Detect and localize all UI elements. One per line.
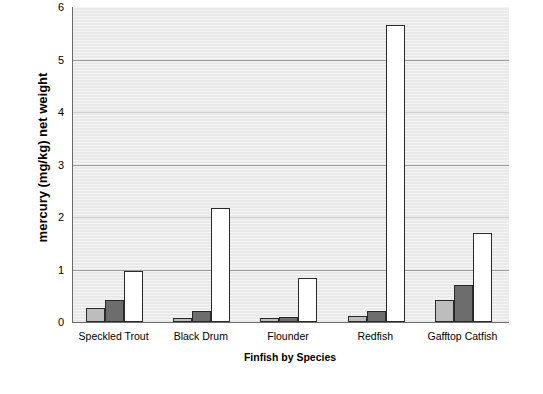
bar <box>86 308 105 322</box>
bar-group <box>335 7 422 322</box>
x-axis-ticks: Speckled TroutBlack DrumFlounderRedfishG… <box>72 330 508 350</box>
bar <box>386 25 405 322</box>
y-tick-label: 2 <box>58 212 64 223</box>
x-tick-label: Redfish <box>357 330 393 342</box>
y-tick-label: 6 <box>58 2 64 13</box>
bar <box>298 278 317 322</box>
x-tick-label: Gafftop Catfish <box>427 330 497 342</box>
x-axis-title: Finfish by Species <box>72 351 508 363</box>
plot-area <box>72 7 509 323</box>
bar-group <box>73 7 160 322</box>
x-tick-label: Speckled Trout <box>79 330 149 342</box>
y-tick-label: 5 <box>58 54 64 65</box>
bar-groups <box>73 7 509 322</box>
bar <box>105 300 124 322</box>
bar <box>124 271 143 322</box>
bar <box>260 318 279 322</box>
bar <box>454 285 473 322</box>
bar <box>173 318 192 322</box>
y-tick-label: 4 <box>58 107 64 118</box>
y-axis-ticks: 0123456 <box>40 0 70 394</box>
bar <box>211 208 230 322</box>
y-tick-label: 3 <box>58 159 64 170</box>
bar-group <box>247 7 334 322</box>
bar <box>435 300 454 322</box>
bar <box>473 233 492 322</box>
y-tick-label: 1 <box>58 264 64 275</box>
bar-chart: mercury (mg/kg) net weight 0123456 Speck… <box>0 0 543 394</box>
bar <box>192 311 211 322</box>
bar-group <box>160 7 247 322</box>
bar <box>367 311 386 322</box>
y-tick-label: 0 <box>58 317 64 328</box>
x-tick-label: Flounder <box>267 330 308 342</box>
x-tick-label: Black Drum <box>174 330 228 342</box>
bar <box>348 316 367 322</box>
bar <box>279 317 298 322</box>
bar-group <box>422 7 509 322</box>
